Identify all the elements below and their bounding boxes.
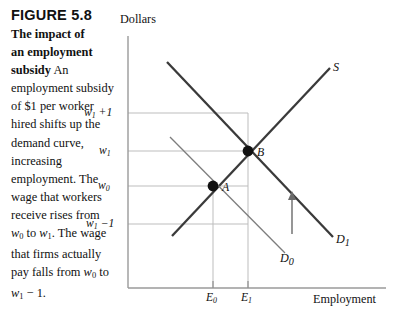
point-marker-a [208,181,219,192]
chart-plot-area: Dollars Employment w1 +1 w1 w0 w1 −1 E0 … [0,0,396,317]
curve-label-demand-original: D0 [280,251,294,267]
y-tick-label-w1plus1: w1 +1 [84,106,112,120]
point-label-a: A [222,180,229,195]
y-tick-label-w1minus1: w1 −1 [86,217,114,231]
curve-label-supply: S [333,60,339,75]
x-tick-label-E0: E0 [206,291,217,305]
point-marker-b [243,146,254,157]
y-tick-label-w0: w0 [98,179,110,193]
curve-demand-original [170,137,285,253]
y-tick-label-w1: w1 [99,144,111,158]
chart-svg [0,0,396,317]
figure-5-8: FIGURE 5.8 The impact ofan employmentsub… [0,0,396,317]
point-label-b: B [257,145,264,160]
x-axis-title: Employment [313,292,376,307]
curve-label-demand-shifted: D1 [336,232,350,248]
x-tick-label-E1: E1 [241,291,252,305]
y-axis-title: Dollars [120,12,156,27]
